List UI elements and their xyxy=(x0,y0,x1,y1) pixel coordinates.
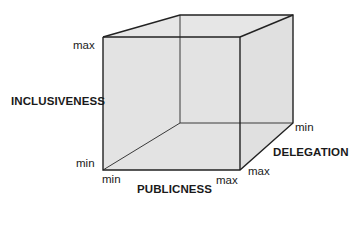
delegation-min-label: min xyxy=(295,122,314,134)
inclusiveness-max-label: max xyxy=(73,40,95,52)
publicness-min-label: min xyxy=(102,174,121,186)
publicness-max-label: max xyxy=(216,175,238,187)
inclusiveness-axis-title: INCLUSIVENESS xyxy=(11,96,105,108)
delegation-max-label: max xyxy=(248,166,270,178)
publicness-axis-title: PUBLICNESS xyxy=(137,184,212,196)
inclusiveness-min-label: min xyxy=(76,158,95,170)
delegation-axis-title: DELEGATION xyxy=(273,147,349,159)
cube-front-face xyxy=(103,37,240,170)
